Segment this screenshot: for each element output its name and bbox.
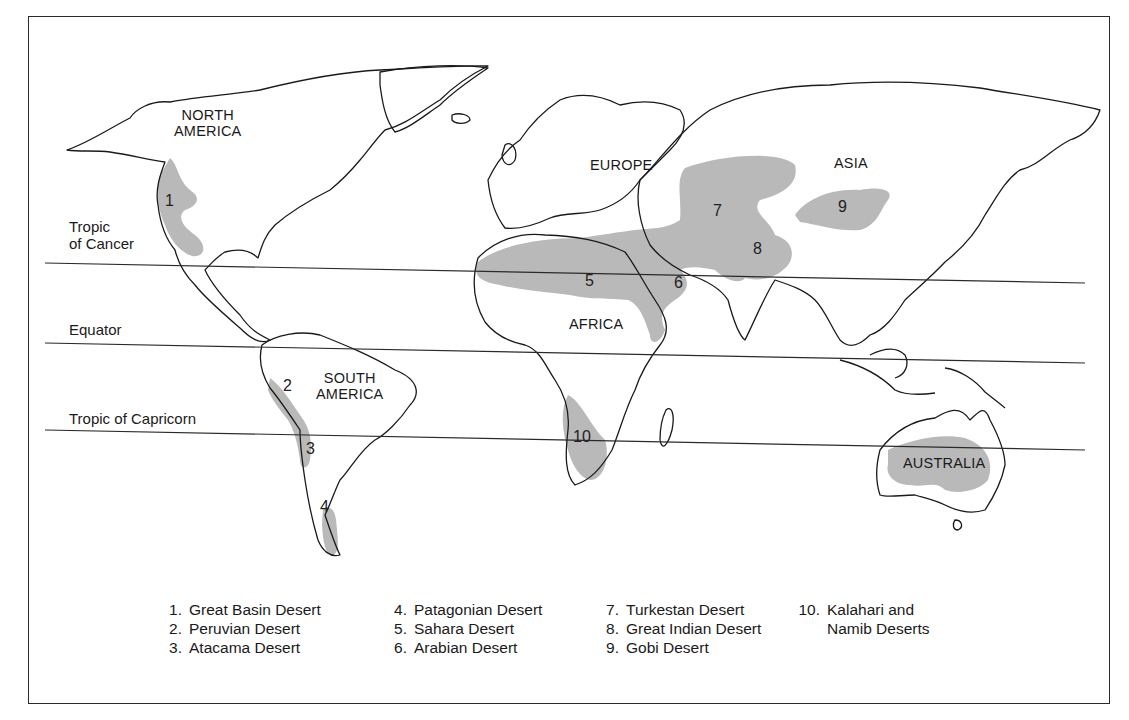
legend-item-7: 7.Turkestan Desert: [597, 600, 761, 619]
south-america-line2: AMERICA: [316, 386, 383, 402]
legend-item-5: 5.Sahara Desert: [385, 619, 542, 638]
desert-sahara-arabian-turkestan-indian: [476, 156, 796, 342]
outline-europe: [488, 95, 684, 228]
north-america-line2: AMERICA: [174, 123, 241, 139]
desert-number-10: 10: [573, 428, 591, 446]
legend-name: Atacama Desert: [189, 639, 300, 656]
continent-label-europe: EUROPE: [590, 157, 652, 173]
legend-num: 3.: [160, 638, 182, 657]
legend-num: 7.: [597, 600, 619, 619]
legend-item-10-cont: Namib Deserts: [798, 619, 930, 638]
outline-iceland: [452, 114, 470, 124]
legend-item-1: 1.Great Basin Desert: [160, 600, 321, 619]
legend-item-9: 9.Gobi Desert: [597, 638, 761, 657]
legend-num: 4.: [385, 600, 407, 619]
legend-num: 5.: [385, 619, 407, 638]
desert-number-1: 1: [165, 192, 174, 210]
legend-item-3: 3.Atacama Desert: [160, 638, 321, 657]
tropic-of-cancer-label-line1: Tropic: [69, 218, 134, 235]
legend-num: 1.: [160, 600, 182, 619]
continent-label-south-america: SOUTH AMERICA: [316, 370, 383, 402]
desert-number-6: 6: [674, 274, 683, 292]
outline-north-america: [67, 66, 488, 342]
desert-number-5: 5: [585, 272, 594, 290]
legend-item-8: 8.Great Indian Desert: [597, 619, 761, 638]
legend-name: Sahara Desert: [414, 620, 514, 637]
legend-name: Gobi Desert: [626, 639, 709, 656]
continent-label-australia: AUSTRALIA: [903, 455, 985, 471]
desert-number-3: 3: [306, 440, 315, 458]
legend-item-4: 4.Patagonian Desert: [385, 600, 542, 619]
continent-label-asia: ASIA: [834, 155, 868, 171]
outline-tasmania: [953, 520, 961, 530]
legend-name: Patagonian Desert: [414, 601, 542, 618]
legend-name: Arabian Desert: [414, 639, 517, 656]
tropic-of-cancer-label-line2: of Cancer: [69, 235, 134, 252]
equator-line: [45, 343, 1085, 363]
desert-number-7: 7: [713, 202, 722, 220]
legend-num: 8.: [597, 619, 619, 638]
legend-num: 10.: [798, 600, 820, 619]
legend-name: Turkestan Desert: [626, 601, 744, 618]
legend-item-2: 2.Peruvian Desert: [160, 619, 321, 638]
legend-column-2: 4.Patagonian Desert 5.Sahara Desert 6.Ar…: [385, 600, 542, 657]
legend-column-3: 7.Turkestan Desert 8.Great Indian Desert…: [597, 600, 761, 657]
south-america-line1: SOUTH: [316, 370, 383, 386]
legend-item-6: 6.Arabian Desert: [385, 638, 542, 657]
desert-number-8: 8: [753, 240, 762, 258]
desert-number-2: 2: [283, 377, 292, 395]
outline-indonesia: [840, 349, 935, 394]
legend-column-4: 10.Kalahari and Namib Deserts: [798, 600, 930, 638]
equator-label: Equator: [69, 321, 122, 338]
tropic-of-cancer-label: Tropic of Cancer: [69, 218, 134, 252]
legend-column-1: 1.Great Basin Desert 2.Peruvian Desert 3…: [160, 600, 321, 657]
legend-num: 6.: [385, 638, 407, 657]
desert-number-4: 4: [320, 498, 329, 516]
legend-name: Peruvian Desert: [189, 620, 300, 637]
continent-label-africa: AFRICA: [569, 316, 623, 332]
legend-name: Great Indian Desert: [626, 620, 761, 637]
desert-number-9: 9: [838, 198, 847, 216]
legend-item-10: 10.Kalahari and: [798, 600, 930, 619]
tropic-of-capricorn-label: Tropic of Capricorn: [69, 410, 196, 427]
legend-num: 9.: [597, 638, 619, 657]
legend-name: Great Basin Desert: [189, 601, 321, 618]
outline-madagascar: [660, 409, 673, 446]
legend-name: Kalahari and: [827, 601, 914, 618]
continent-label-north-america: NORTH AMERICA: [174, 107, 241, 139]
north-america-line1: NORTH: [174, 107, 241, 123]
legend-num: 2.: [160, 619, 182, 638]
outline-new-guinea: [945, 368, 1005, 408]
desert-regions: [158, 156, 991, 555]
outline-south-america: [260, 333, 416, 556]
